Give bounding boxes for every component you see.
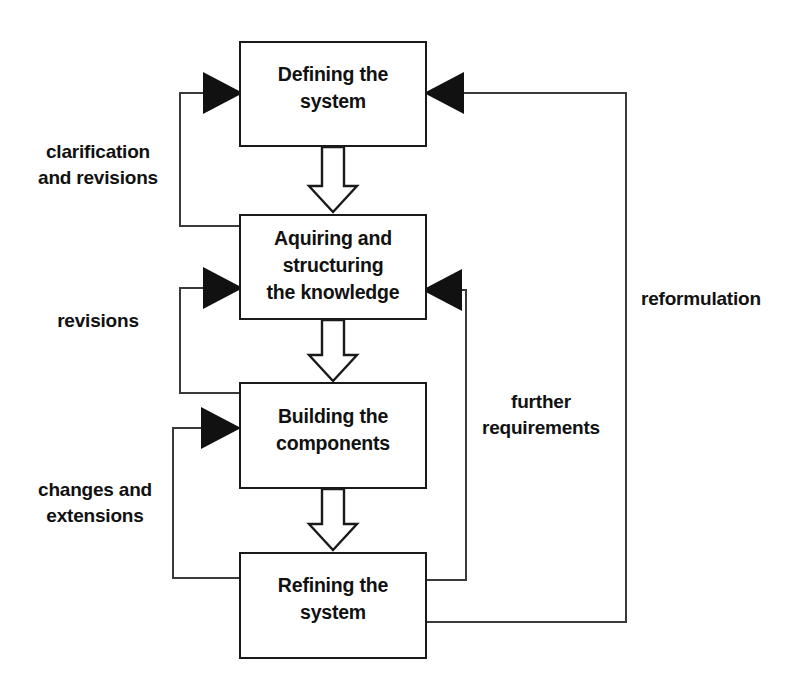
label-clarification-and-revisions-line1: clarification — [46, 141, 150, 162]
process-flow-diagram: Defining the system Aquiring and structu… — [0, 0, 800, 700]
box-refining-line2: system — [300, 601, 366, 623]
connector-clarification-and-revisions — [180, 93, 240, 226]
label-revisions: revisions — [57, 310, 139, 331]
box-refining-line1: Refining the — [278, 574, 389, 596]
box-aquiring-line1: Aquiring and — [274, 227, 392, 249]
label-reformulation: reformulation — [641, 288, 761, 309]
arrowhead-into-defining-the-system-right — [424, 72, 464, 114]
box-aquiring-line3: the knowledge — [267, 281, 400, 303]
box-aquiring-line2: structuring — [283, 254, 384, 276]
block-arrow-building-to-refining — [309, 489, 357, 550]
box-building-line2: components — [276, 432, 390, 454]
arrowhead-into-aquiring-left — [203, 267, 243, 309]
label-changes-and-extensions-line2: extensions — [46, 505, 143, 526]
box-defining-the-system-line2: system — [300, 90, 366, 112]
arrowhead-into-aquiring-right — [422, 269, 462, 311]
connector-further-requirements — [425, 290, 466, 580]
block-arrow-defining-to-aquiring — [309, 147, 357, 212]
flow-diagram-canvas: Defining the system Aquiring and structu… — [0, 0, 800, 700]
box-building-line1: Building the — [278, 405, 389, 427]
connector-changes-and-extensions — [173, 428, 240, 578]
connector-reformulation — [425, 93, 626, 622]
label-clarification-and-revisions-line2: and revisions — [38, 167, 158, 188]
arrowhead-into-defining-the-system-left — [203, 72, 243, 114]
label-changes-and-extensions-line1: changes and — [38, 479, 152, 500]
block-arrow-aquiring-to-building — [309, 320, 357, 381]
label-further-requirements-line1: further — [511, 391, 572, 412]
arrowhead-into-building-left — [201, 407, 241, 449]
box-defining-the-system-line1: Defining the — [278, 63, 389, 85]
label-further-requirements-line2: requirements — [482, 417, 600, 438]
